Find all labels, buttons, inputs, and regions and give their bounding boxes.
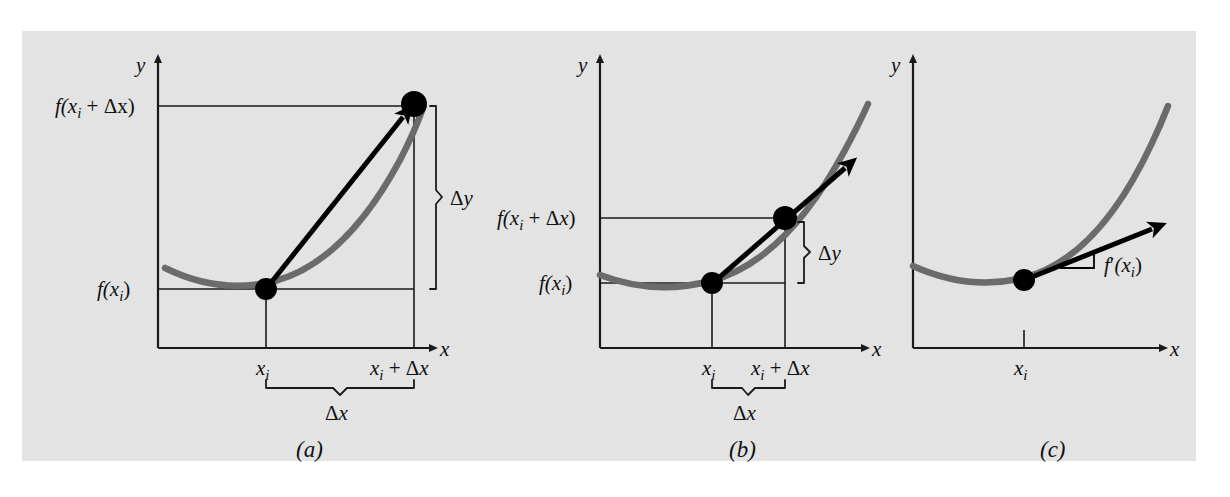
panel-b-x-axis-label: x: [871, 337, 882, 361]
panel-c-xlabel-xi: xi: [1013, 356, 1028, 383]
panel-a-point-lower: [255, 278, 277, 300]
panel-c-y-axis-label: y: [889, 53, 901, 77]
panel-b-delta-x-brace: [712, 380, 785, 395]
figure-root: y x f(xi + Δx) f(xi) xi xi + Δx Δy: [0, 0, 1230, 497]
panel-c-slope-label: f′(xi): [1104, 253, 1142, 280]
panel-c-tangent-point: [1013, 269, 1035, 291]
panel-a-delta-x-label: Δx: [325, 401, 349, 425]
panel-a-function-curve: [165, 108, 423, 286]
panel-a-ylabel-bottom: f(xi): [97, 277, 130, 304]
panel-b-ylabel-bottom: f(xi): [539, 271, 572, 298]
panel-b-y-axis-label: y: [576, 53, 588, 77]
panel-a-ylabel-top: f(xi + Δx): [55, 94, 135, 121]
panel-b-xlabel-xi: xi: [701, 356, 716, 383]
panel-c: y x xi f′(xi) (c): [889, 53, 1180, 462]
panel-c-caption: (c): [1040, 437, 1066, 462]
panel-a-delta-y-brace: [430, 106, 442, 289]
panel-b-point-upper: [773, 206, 797, 230]
panel-c-slope-label-close: ): [1135, 253, 1142, 277]
panel-b-delta-y-brace: [798, 222, 810, 283]
panel-a-delta-x-brace: [266, 380, 414, 395]
panel-a-point-upper: [401, 91, 427, 117]
panel-a-y-axis-label: y: [134, 53, 146, 77]
panel-a-ylabel-bottom-rest: ): [123, 277, 130, 301]
derivative-definition-figure: y x f(xi + Δx) f(xi) xi xi + Δx Δy: [0, 0, 1230, 497]
panel-b-delta-y-label: Δy: [818, 241, 842, 265]
panel-c-slope-label-open: (x: [1114, 253, 1131, 277]
panel-b-xlabel-xi-dx: xi + Δx: [750, 356, 810, 383]
panel-b-caption: (b): [729, 437, 756, 462]
panel-b-ylabel-top: f(xi + Δx): [497, 206, 576, 233]
panel-a-ylabel-bottom-fx: f(x: [97, 277, 120, 301]
panel-a-ylabel-top-fx: f(x: [55, 94, 78, 118]
panel-a-xlabel-xi: xi: [255, 356, 270, 383]
panel-b-delta-x-label: Δx: [733, 401, 757, 425]
panel-a-caption: (a): [296, 437, 323, 462]
panel-b-point-lower: [701, 272, 723, 294]
panel-c-x-axis-label: x: [1169, 337, 1180, 361]
panel-a: y x f(xi + Δx) f(xi) xi xi + Δx Δy: [55, 53, 474, 462]
panel-b: y x f(xi + Δx) f(xi) xi xi + Δx Δy Δx (b…: [497, 53, 882, 462]
panel-a-delta-y-label: Δy: [450, 186, 474, 210]
panel-a-x-axis-label: x: [439, 337, 450, 361]
panel-a-xlabel-xi-dx: xi + Δx: [369, 356, 429, 383]
panel-b-secant-arrow: [706, 168, 845, 289]
panel-a-secant-arrow: [266, 117, 403, 289]
panel-a-ylabel-top-rest: + Δx): [81, 94, 134, 118]
